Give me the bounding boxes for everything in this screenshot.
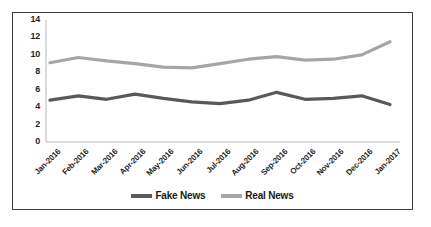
chart-legend: Fake NewsReal News [12, 190, 413, 201]
chart-frame [12, 12, 413, 210]
y-axis-tick-label: 10 [22, 49, 40, 59]
legend-entry[interactable]: Real News [221, 190, 293, 201]
legend-label: Real News [245, 190, 293, 201]
y-axis-tick-label: 8 [22, 66, 40, 76]
y-axis-tick-label: 6 [22, 84, 40, 94]
legend-label: Fake News [155, 190, 205, 201]
legend-swatch-icon [131, 194, 152, 198]
y-axis-tick-label: 12 [22, 31, 40, 41]
y-axis-tick-label: 2 [22, 119, 40, 129]
legend-entry[interactable]: Fake News [131, 190, 205, 201]
legend-swatch-icon [221, 194, 242, 198]
y-axis-tick-label: 4 [22, 101, 40, 111]
y-axis-tick-label: 0 [22, 136, 40, 146]
y-axis-tick-label: 14 [22, 14, 40, 24]
